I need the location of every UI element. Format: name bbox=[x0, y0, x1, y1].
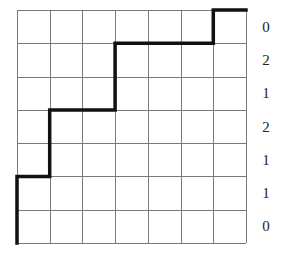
row-label: 1 bbox=[262, 185, 270, 201]
row-labels: 0212110 bbox=[262, 19, 270, 235]
row-label: 2 bbox=[262, 52, 270, 68]
row-label: 0 bbox=[262, 19, 270, 35]
lattice-path-diagram: 0212110 bbox=[0, 0, 286, 258]
row-label: 1 bbox=[262, 152, 270, 168]
row-label: 2 bbox=[262, 119, 270, 135]
staircase-path bbox=[17, 10, 246, 243]
row-label: 0 bbox=[262, 218, 270, 234]
row-label: 1 bbox=[262, 85, 270, 101]
